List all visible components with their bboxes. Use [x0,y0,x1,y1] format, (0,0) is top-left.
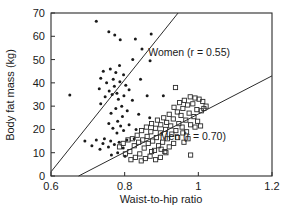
data-point-women [101,142,104,145]
data-point-women [139,78,142,81]
data-point-women [111,93,114,96]
data-point-women [126,109,129,112]
y-tick-label: 50 [33,54,45,66]
data-point-men [188,95,192,99]
data-point-women [117,98,120,101]
y-tick-label: 70 [33,7,45,19]
data-point-men [191,102,195,106]
data-point-women [112,78,115,81]
x-axis-tick-labels: 0.60.811.2 [43,180,279,192]
data-point-men [164,151,168,155]
data-point-women [107,30,110,33]
y-tick-label: 30 [33,100,45,112]
data-point-women [115,131,118,134]
data-point-men [143,156,147,160]
data-point-women [114,71,117,74]
data-point-men [172,105,176,109]
data-point-women [105,81,108,84]
data-point-women [115,92,118,95]
data-point-women [113,143,116,146]
data-point-women [104,95,107,98]
data-point-women [134,38,137,41]
data-point-women [140,48,143,51]
data-point-men [155,118,159,122]
data-point-men [159,123,163,127]
data-point-men [182,98,186,102]
y-axis-tick-labels: 010203040506070 [33,7,45,182]
data-point-women [116,120,119,123]
x-tick-label: 0.6 [43,180,58,192]
data-point-women [107,122,110,125]
data-point-men [140,128,144,132]
men-fit-line [79,76,272,176]
data-point-women [118,64,121,67]
data-point-men [142,146,146,150]
data-point-men [149,149,153,153]
data-point-men [177,101,181,105]
data-point-men [148,154,152,158]
y-tick-label: 40 [33,77,45,89]
data-point-men [145,134,149,138]
data-point-men [152,148,156,152]
data-point-women [102,70,105,73]
data-point-women [146,94,149,97]
data-point-men [198,124,202,128]
data-point-men [154,126,158,130]
data-point-men [149,130,153,134]
data-point-women [111,127,114,130]
data-point-women [148,116,151,119]
data-point-women [83,140,86,143]
data-point-men [181,106,185,110]
data-point-women [122,129,125,132]
data-point-women [120,105,123,108]
data-point-women [90,144,93,147]
data-point-men [173,85,177,89]
women-series-label: Women (r = 0.55) [148,46,230,58]
data-point-women [124,84,127,87]
data-point-men [167,145,171,149]
data-point-men [135,133,139,137]
data-point-men [138,152,142,156]
data-point-women [109,140,112,143]
data-point-women [118,141,121,144]
data-point-women [113,85,116,88]
y-tick-label: 0 [39,170,45,182]
data-point-women [119,124,122,127]
data-point-women [116,151,119,154]
data-point-men [195,108,199,112]
data-point-women [131,58,134,61]
data-point-women [118,80,121,83]
data-point-women [95,20,98,23]
scatter-plot-figure: 0.60.811.2 010203040506070 Women (r = 0.… [0,0,292,213]
data-point-men [193,96,197,100]
men-series-label: Men (r = 0.70) [160,130,226,142]
data-point-women [128,88,131,91]
data-point-men [167,112,171,116]
data-point-women [135,128,138,131]
y-tick-label: 60 [33,30,45,42]
data-point-women [98,87,101,90]
data-point-men [154,158,158,162]
data-point-women [114,107,117,110]
data-point-women [122,73,125,76]
data-point-women [122,94,125,97]
y-axis-ticks [51,13,55,176]
data-point-men [171,117,175,121]
data-point-men [162,116,166,120]
data-point-women [128,123,131,126]
data-point-men [188,153,192,157]
data-point-men [165,120,169,124]
data-point-women [98,148,101,151]
data-point-women [103,137,106,140]
x-tick-label: 1 [195,180,201,192]
data-point-men [193,125,197,129]
data-point-women [68,93,71,96]
data-point-women [107,145,110,148]
data-point-women [149,59,152,62]
data-point-women [150,32,153,35]
data-point-men [187,111,191,115]
women-data-points [68,20,165,158]
data-point-men [158,155,162,159]
data-point-women [131,99,134,102]
data-point-women [137,113,140,116]
